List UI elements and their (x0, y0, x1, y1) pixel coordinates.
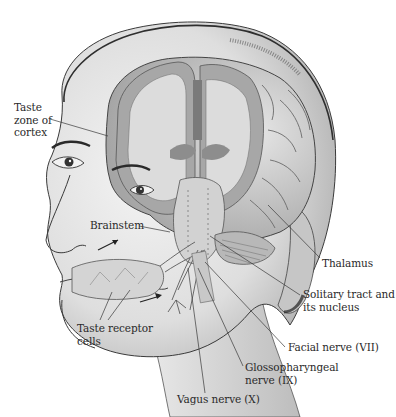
label-thalamus: Thalamus (322, 257, 373, 270)
tongue (72, 259, 164, 299)
head-illustration (0, 0, 396, 417)
anatomy-figure: Taste zone of cortex Brainstem Thalamus … (0, 0, 396, 417)
label-facial-nerve: Facial nerve (VII) (288, 341, 379, 354)
label-solitary-tract: Solitary tract and its nucleus (303, 288, 395, 313)
label-vagus-nerve: Vagus nerve (X) (177, 393, 260, 406)
label-taste-receptor-cells: Taste receptor cells (77, 322, 153, 347)
label-brainstem: Brainstem (90, 219, 144, 232)
label-glossopharyngeal-nerve: Glossopharyngeal nerve (IX) (245, 361, 339, 386)
label-taste-zone-of-cortex: Taste zone of cortex (14, 101, 52, 139)
